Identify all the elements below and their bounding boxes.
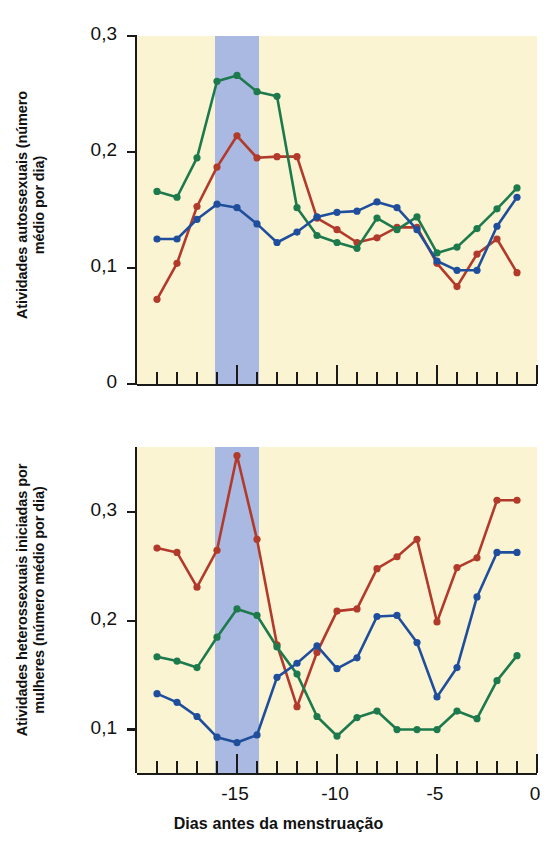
x-axis-label: -10: [305, 783, 365, 805]
y-axis-title-bottom: Atividades heterossexuais iniciadas por …: [14, 420, 48, 780]
data-point-red: [453, 564, 460, 571]
data-point-green: [473, 715, 480, 722]
data-point-red: [233, 452, 240, 459]
data-point-red: [273, 153, 280, 160]
data-point-green: [393, 726, 400, 733]
data-point-green: [153, 653, 160, 660]
data-point-red: [233, 132, 240, 139]
x-tick: [216, 372, 218, 384]
data-point-red: [293, 703, 300, 710]
data-point-red: [193, 584, 200, 591]
data-point-red: [293, 153, 300, 160]
x-tick: [196, 761, 198, 773]
data-point-blue: [333, 665, 340, 672]
data-point-blue: [253, 220, 260, 227]
data-point-blue: [273, 239, 280, 246]
data-point-red: [493, 497, 500, 504]
data-point-blue: [193, 216, 200, 223]
x-axis-label: -5: [405, 783, 465, 805]
data-point-green: [273, 93, 280, 100]
data-point-red: [173, 260, 180, 267]
data-point-green: [493, 205, 500, 212]
x-axis-label: -15: [205, 783, 265, 805]
data-point-blue: [373, 613, 380, 620]
x-tick: [456, 372, 458, 384]
y-axis-label: 0,3: [47, 499, 117, 521]
x-tick: [356, 372, 358, 384]
data-point-green: [353, 714, 360, 721]
data-point-red: [373, 234, 380, 241]
x-tick: [456, 761, 458, 773]
data-point-blue: [253, 731, 260, 738]
data-point-blue: [153, 690, 160, 697]
x-tick: [536, 754, 538, 773]
data-point-green: [393, 226, 400, 233]
chart-panel-top: Atividades autossexuais (número médio po…: [0, 0, 557, 400]
data-point-blue: [373, 198, 380, 205]
data-point-blue: [333, 209, 340, 216]
data-point-blue: [493, 549, 500, 556]
data-point-green: [213, 634, 220, 641]
data-point-green: [433, 726, 440, 733]
data-point-green: [313, 713, 320, 720]
data-point-blue: [233, 739, 240, 746]
x-tick: [376, 372, 378, 384]
y-tick-chart-bottom: [127, 728, 137, 730]
series-layer-top: [137, 36, 537, 384]
data-point-blue: [173, 699, 180, 706]
data-point-red: [473, 250, 480, 257]
y-tick-chart-top: [127, 151, 137, 153]
x-tick: [336, 365, 338, 384]
x-tick: [436, 754, 438, 773]
x-axis-line-bottom: [137, 773, 537, 775]
data-point-red: [153, 544, 160, 551]
data-point-green: [473, 225, 480, 232]
x-tick: [336, 754, 338, 773]
data-point-green: [153, 188, 160, 195]
x-tick: [236, 365, 238, 384]
data-point-blue: [413, 639, 420, 646]
data-point-green: [373, 215, 380, 222]
data-point-blue: [453, 267, 460, 274]
y-axis-title-top: Atividades autossexuais (número médio po…: [14, 25, 48, 385]
series-line-blue: [157, 197, 517, 270]
x-tick: [416, 372, 418, 384]
data-point-red: [193, 203, 200, 210]
x-tick: [256, 761, 258, 773]
data-point-blue: [273, 674, 280, 681]
data-point-blue: [313, 642, 320, 649]
data-point-green: [333, 239, 340, 246]
x-tick: [176, 761, 178, 773]
x-tick: [296, 372, 298, 384]
data-point-green: [513, 184, 520, 191]
data-point-green: [333, 732, 340, 739]
data-point-red: [253, 536, 260, 543]
x-tick: [356, 761, 358, 773]
data-point-green: [253, 88, 260, 95]
x-tick: [216, 761, 218, 773]
data-point-green: [213, 78, 220, 85]
x-axis-title: Dias antes da menstruação: [0, 815, 557, 833]
y-tick-chart-top: [127, 35, 137, 37]
x-tick: [536, 365, 538, 384]
x-tick: [476, 372, 478, 384]
series-line-green: [157, 609, 517, 736]
series-line-red: [157, 136, 517, 300]
data-point-blue: [433, 693, 440, 700]
data-point-red: [473, 554, 480, 561]
data-point-blue: [413, 226, 420, 233]
x-tick: [516, 372, 518, 384]
data-point-blue: [453, 664, 460, 671]
data-point-red: [353, 605, 360, 612]
y-tick-chart-top: [127, 383, 137, 385]
data-point-green: [453, 707, 460, 714]
data-point-red: [153, 296, 160, 303]
data-point-green: [293, 671, 300, 678]
x-axis-line-top: [137, 384, 537, 386]
data-point-red: [493, 235, 500, 242]
x-tick: [316, 372, 318, 384]
data-point-green: [513, 652, 520, 659]
data-point-red: [213, 547, 220, 554]
x-tick: [416, 761, 418, 773]
data-point-green: [233, 72, 240, 79]
